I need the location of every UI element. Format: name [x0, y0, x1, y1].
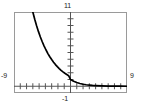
y-axis-max-label: 11 — [64, 2, 71, 9]
x-axis-max-label: 9 — [130, 72, 134, 79]
plot-canvas — [14, 12, 127, 93]
y-axis-min-label: -1 — [62, 95, 68, 102]
x-axis-min-label: -9 — [1, 72, 7, 79]
curve-exponential-decay — [33, 12, 127, 86]
graph-viewport: 11 -1 -9 9 — [0, 0, 142, 105]
